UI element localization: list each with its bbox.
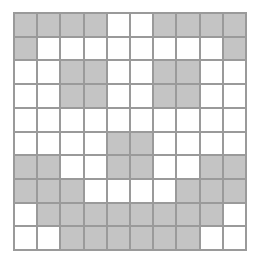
grid-cell-r5-c2 — [61, 133, 82, 155]
grid-cell-r6-c0 — [15, 156, 36, 178]
grid-cell-r1-c6 — [154, 38, 175, 60]
grid-cell-r6-c3 — [85, 156, 106, 178]
grid-cell-r2-c0 — [15, 61, 36, 83]
grid-cell-r7-c1 — [38, 180, 59, 202]
grid-cell-r8-c8 — [201, 204, 222, 226]
grid-cell-r2-c9 — [224, 61, 245, 83]
grid-cell-r7-c9 — [224, 180, 245, 202]
grid-cell-r9-c7 — [177, 227, 198, 249]
grid-cell-r4-c5 — [131, 109, 152, 131]
grid-cell-r4-c1 — [38, 109, 59, 131]
grid-cell-r6-c5 — [131, 156, 152, 178]
grid-cell-r6-c1 — [38, 156, 59, 178]
grid-cell-r9-c3 — [85, 227, 106, 249]
grid-cell-r8-c1 — [38, 204, 59, 226]
grid-cell-r8-c9 — [224, 204, 245, 226]
grid-cell-r4-c4 — [108, 109, 129, 131]
grid-cell-r9-c4 — [108, 227, 129, 249]
grid-cell-r6-c6 — [154, 156, 175, 178]
grid-cell-r8-c2 — [61, 204, 82, 226]
grid-cell-r9-c8 — [201, 227, 222, 249]
grid-cell-r7-c6 — [154, 180, 175, 202]
grid-cell-r7-c2 — [61, 180, 82, 202]
grid-cell-r2-c2 — [61, 61, 82, 83]
grid-cell-r0-c5 — [131, 14, 152, 36]
grid-cell-r3-c4 — [108, 85, 129, 107]
grid-cell-r1-c4 — [108, 38, 129, 60]
grid-cell-r8-c6 — [154, 204, 175, 226]
grid-cell-r9-c5 — [131, 227, 152, 249]
grid-cell-r2-c3 — [85, 61, 106, 83]
grid-cell-r2-c6 — [154, 61, 175, 83]
grid-cell-r7-c3 — [85, 180, 106, 202]
grid-cell-r3-c5 — [131, 85, 152, 107]
grid-cell-r2-c7 — [177, 61, 198, 83]
grid-cell-r1-c5 — [131, 38, 152, 60]
grid-cell-r5-c8 — [201, 133, 222, 155]
grid-cell-r2-c4 — [108, 61, 129, 83]
grid-cell-r3-c9 — [224, 85, 245, 107]
grid-cell-r9-c0 — [15, 227, 36, 249]
grid-cell-r5-c9 — [224, 133, 245, 155]
grid-cell-r5-c6 — [154, 133, 175, 155]
grid-cell-r1-c7 — [177, 38, 198, 60]
grid-cell-r0-c4 — [108, 14, 129, 36]
grid-cell-r8-c5 — [131, 204, 152, 226]
grid-cell-r6-c7 — [177, 156, 198, 178]
grid-cell-r0-c0 — [15, 14, 36, 36]
grid-cell-r0-c3 — [85, 14, 106, 36]
grid-cell-r7-c7 — [177, 180, 198, 202]
grid-cell-r7-c5 — [131, 180, 152, 202]
grid-cell-r4-c2 — [61, 109, 82, 131]
grid-cell-r0-c9 — [224, 14, 245, 36]
grid-cell-r1-c8 — [201, 38, 222, 60]
grid-cell-r6-c8 — [201, 156, 222, 178]
grid-cell-r7-c8 — [201, 180, 222, 202]
grid-cell-r5-c1 — [38, 133, 59, 155]
grid-cell-r6-c2 — [61, 156, 82, 178]
grid-cell-r2-c8 — [201, 61, 222, 83]
grid-cell-r9-c6 — [154, 227, 175, 249]
grid-cell-r2-c5 — [131, 61, 152, 83]
grid-cell-r9-c1 — [38, 227, 59, 249]
grid-cell-r7-c4 — [108, 180, 129, 202]
grid-cell-r5-c4 — [108, 133, 129, 155]
grid-cell-r3-c3 — [85, 85, 106, 107]
grid-cell-r8-c7 — [177, 204, 198, 226]
grid-cell-r5-c5 — [131, 133, 152, 155]
pixel-grid — [13, 12, 247, 251]
grid-cell-r3-c8 — [201, 85, 222, 107]
grid-cell-r7-c0 — [15, 180, 36, 202]
grid-cell-r3-c1 — [38, 85, 59, 107]
grid-cell-r0-c8 — [201, 14, 222, 36]
grid-cell-r0-c1 — [38, 14, 59, 36]
grid-cell-r5-c0 — [15, 133, 36, 155]
grid-cell-r3-c0 — [15, 85, 36, 107]
grid-cell-r1-c1 — [38, 38, 59, 60]
grid-cell-r6-c4 — [108, 156, 129, 178]
grid-cell-r0-c2 — [61, 14, 82, 36]
grid-cell-r4-c9 — [224, 109, 245, 131]
grid-cell-r5-c3 — [85, 133, 106, 155]
grid-cell-r0-c7 — [177, 14, 198, 36]
grid-cell-r1-c9 — [224, 38, 245, 60]
grid-cell-r1-c0 — [15, 38, 36, 60]
grid-cell-r8-c4 — [108, 204, 129, 226]
grid-cell-r6-c9 — [224, 156, 245, 178]
grid-cell-r4-c7 — [177, 109, 198, 131]
grid-cell-r9-c2 — [61, 227, 82, 249]
grid-cell-r8-c0 — [15, 204, 36, 226]
grid-cell-r2-c1 — [38, 61, 59, 83]
grid-cell-r5-c7 — [177, 133, 198, 155]
grid-cell-r4-c3 — [85, 109, 106, 131]
grid-cell-r4-c0 — [15, 109, 36, 131]
grid-cell-r8-c3 — [85, 204, 106, 226]
grid-cell-r1-c2 — [61, 38, 82, 60]
grid-cell-r4-c6 — [154, 109, 175, 131]
grid-cell-r3-c2 — [61, 85, 82, 107]
grid-cell-r1-c3 — [85, 38, 106, 60]
grid-cell-r9-c9 — [224, 227, 245, 249]
grid-cell-r0-c6 — [154, 14, 175, 36]
grid-cell-r4-c8 — [201, 109, 222, 131]
grid-cell-r3-c6 — [154, 85, 175, 107]
